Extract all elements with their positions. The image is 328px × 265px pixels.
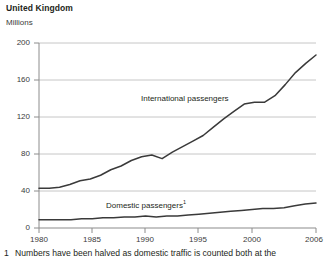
x-tick-label-2000: 2000: [232, 235, 272, 244]
footnote-text: Numbers have been halved as domestic tra…: [15, 248, 276, 258]
y-tick-label-160: 160: [4, 75, 30, 84]
footnote-marker: 1: [4, 248, 15, 258]
x-tick-label-1985: 1985: [72, 235, 112, 244]
y-tick-label-200: 200: [4, 38, 30, 47]
y-tick-label-120: 120: [4, 112, 30, 121]
x-tick-label-1980: 1980: [19, 235, 59, 244]
footnote: 1Numbers have been halved as domestic tr…: [4, 248, 320, 258]
series-line-international: [39, 55, 316, 188]
y-tick-label-0: 0: [4, 223, 30, 232]
x-tick-label-1990: 1990: [125, 235, 165, 244]
series-annotation-domestic: Domestic passengers1: [106, 201, 186, 210]
gridlines: [39, 43, 316, 191]
series-annotation-domestic-text: Domestic passengers: [106, 201, 183, 210]
y-tick-label-80: 80: [4, 149, 30, 158]
footnote-superscript: 1: [183, 199, 186, 205]
x-tick-label-2006: 2006: [294, 235, 328, 244]
series-annotation-international: International passengers: [141, 94, 229, 103]
x-axis-ticks: [39, 228, 316, 233]
y-axis-ticks: [34, 43, 39, 228]
y-tick-label-40: 40: [4, 186, 30, 195]
x-tick-label-1995: 1995: [178, 235, 218, 244]
